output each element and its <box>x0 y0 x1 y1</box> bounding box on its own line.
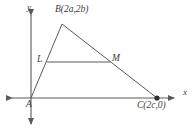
vertex-label-a: A <box>26 100 32 110</box>
vertex-label-c: C(2c,0) <box>137 101 166 111</box>
vertex-label-b: B(2a,2b) <box>55 5 89 15</box>
point-label-m: M <box>112 54 120 64</box>
y-axis-label: y <box>27 3 31 12</box>
point-label-l: L <box>37 55 42 65</box>
x-axis-label: x <box>183 88 187 97</box>
segment-ab <box>31 24 62 98</box>
figure-canvas <box>0 0 195 136</box>
segment-bc <box>62 24 157 98</box>
geometry-figure: y x A B(2a,2b) C(2c,0) L M <box>0 0 195 136</box>
